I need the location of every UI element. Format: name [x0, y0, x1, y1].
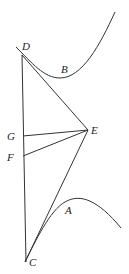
- lower-curve: [25, 198, 121, 262]
- label-F: F: [6, 151, 14, 163]
- segment-FE: [23, 130, 88, 156]
- segment-GE: [23, 130, 88, 136]
- label-B: B: [61, 63, 68, 75]
- label-C: C: [29, 256, 37, 268]
- label-A: A: [64, 204, 72, 216]
- segment-DE: [22, 55, 88, 130]
- label-D: D: [21, 40, 30, 52]
- segment-DC: [22, 55, 26, 262]
- label-G: G: [7, 130, 15, 142]
- geometry-diagram: D B E G F A C: [0, 0, 129, 274]
- label-E: E: [90, 124, 98, 136]
- segment-CE: [25, 130, 88, 262]
